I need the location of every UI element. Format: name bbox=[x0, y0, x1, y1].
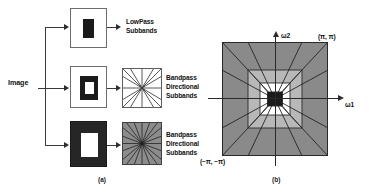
panel-a: Image LowPass Subbands bbox=[0, 0, 200, 196]
lowpass-output-arrow bbox=[116, 24, 121, 30]
input-image-label: Image bbox=[8, 79, 28, 87]
branch-arrow-lowpass bbox=[64, 24, 69, 30]
bandpass-2-label-line1: Bandpass bbox=[166, 131, 197, 139]
lowpass-subbands-label-line1: LowPass bbox=[126, 18, 154, 26]
omega1-axis-label: ω1 bbox=[345, 101, 354, 109]
distribution-spine bbox=[45, 27, 46, 145]
omega1-axis-line bbox=[208, 98, 339, 99]
panel-b: ω1 ω2 (π, π) (−π, −π) (b) bbox=[200, 0, 369, 196]
bandpass-wide-ring-filter-icon bbox=[70, 121, 107, 167]
bandpass-ring-filter-icon bbox=[70, 66, 107, 108]
omega2-axis-label: ω2 bbox=[281, 32, 290, 40]
panel-b-caption: (b) bbox=[272, 176, 280, 183]
omega2-axis-arrowhead bbox=[273, 31, 279, 37]
corner-label-top-right: (π, π) bbox=[318, 33, 336, 41]
omega1-axis-arrowhead bbox=[338, 95, 344, 101]
bandpass-ring-hole-shape bbox=[85, 82, 94, 94]
branch-arrow-bandpass-1 bbox=[64, 85, 69, 91]
bandpass-2-link-arrow bbox=[116, 142, 121, 148]
directional-fan-16-icon bbox=[122, 122, 162, 165]
branch-wire-bandpass-1 bbox=[45, 88, 65, 89]
corner-label-bottom-left: (−π, −π) bbox=[200, 158, 225, 166]
bandpass-ring-outer-shape bbox=[80, 76, 98, 100]
branch-wire-bandpass-2 bbox=[45, 145, 65, 146]
bandpass-1-label-line1: Bandpass bbox=[166, 74, 197, 82]
panel-a-caption: (a) bbox=[98, 176, 106, 183]
lowpass-filter-icon bbox=[70, 8, 107, 48]
bandpass-1-label-line3: Subbands bbox=[166, 92, 197, 100]
lowpass-subbands-label-line2: Subbands bbox=[126, 27, 157, 35]
bandpass-1-link-arrow bbox=[116, 85, 121, 91]
bandpass-2-label-line3: Subbands bbox=[166, 149, 197, 157]
bandpass-1-label-line2: Directional bbox=[166, 83, 199, 91]
branch-wire-lowpass bbox=[45, 27, 65, 28]
directional-fan-8-icon bbox=[122, 68, 162, 108]
bandpass-wide-hole-shape bbox=[81, 133, 98, 157]
branch-arrow-bandpass-2 bbox=[64, 142, 69, 148]
omega2-axis-line bbox=[275, 36, 276, 166]
bandpass-2-label-line2: Directional bbox=[166, 140, 199, 148]
lowpass-core-shape bbox=[83, 19, 94, 38]
figure-root: Image LowPass Subbands bbox=[0, 0, 369, 196]
